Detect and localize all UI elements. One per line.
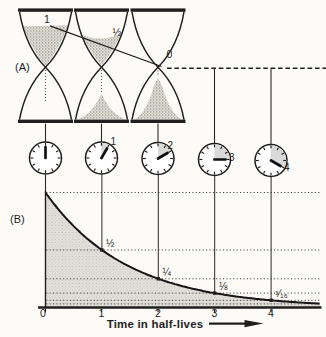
x-tick-label: 1: [99, 307, 105, 319]
panel-a-label: (A): [15, 61, 30, 73]
x-tick-label: 4: [268, 307, 274, 319]
clock-number-label: 2: [168, 140, 174, 151]
curve-point: [269, 299, 272, 302]
hourglass-bottom-bar: [131, 120, 186, 123]
curve-point: [100, 248, 103, 251]
halflife-figure: 1 ½ 0 (A) 1 2 3 4 (B) ½¼⅛¹⁄₁₆: [0, 0, 326, 337]
hourglass-bottom-bar: [74, 120, 129, 123]
fraction-label: ¹⁄₁₆: [275, 288, 287, 299]
panel-b-label: (B): [10, 213, 25, 225]
fraction-label: ⅛: [219, 281, 228, 292]
figure-canvas: 1 ½ 0 (A) 1 2 3 4 (B) ½¼⅛¹⁄₁₆: [0, 0, 326, 337]
clock-number-label: 1: [111, 136, 117, 147]
fraction-label: ¼: [163, 267, 172, 278]
clock-center: [44, 157, 46, 159]
hourglass-top-bar: [131, 8, 186, 11]
clock-4-half-lives: [255, 145, 287, 177]
x-tick-label: 0: [40, 307, 46, 319]
x-tick-label: 3: [212, 307, 218, 319]
clock-center: [157, 157, 159, 159]
clock-0-half-lives: [30, 142, 62, 174]
hourglass-amount-label: 1: [44, 13, 50, 25]
clock-3-half-lives: [199, 144, 231, 176]
curve-point: [157, 277, 160, 280]
hourglass-top-bar: [18, 8, 73, 11]
fraction-label: ½: [106, 238, 115, 249]
clock-number-label: 3: [229, 152, 235, 163]
x-axis-title: Time in half-lives: [107, 318, 204, 330]
hourglass-bottom-bar: [18, 120, 73, 123]
clock-center: [100, 157, 102, 159]
curve-point: [213, 291, 216, 294]
hourglass-amount-label: 0: [167, 48, 173, 60]
hourglass-top-bar: [74, 8, 129, 11]
clock-center: [213, 158, 215, 160]
hourglass-amount-label: ½: [113, 26, 122, 38]
clock-number-label: 4: [284, 162, 290, 173]
clock-center: [270, 159, 272, 161]
